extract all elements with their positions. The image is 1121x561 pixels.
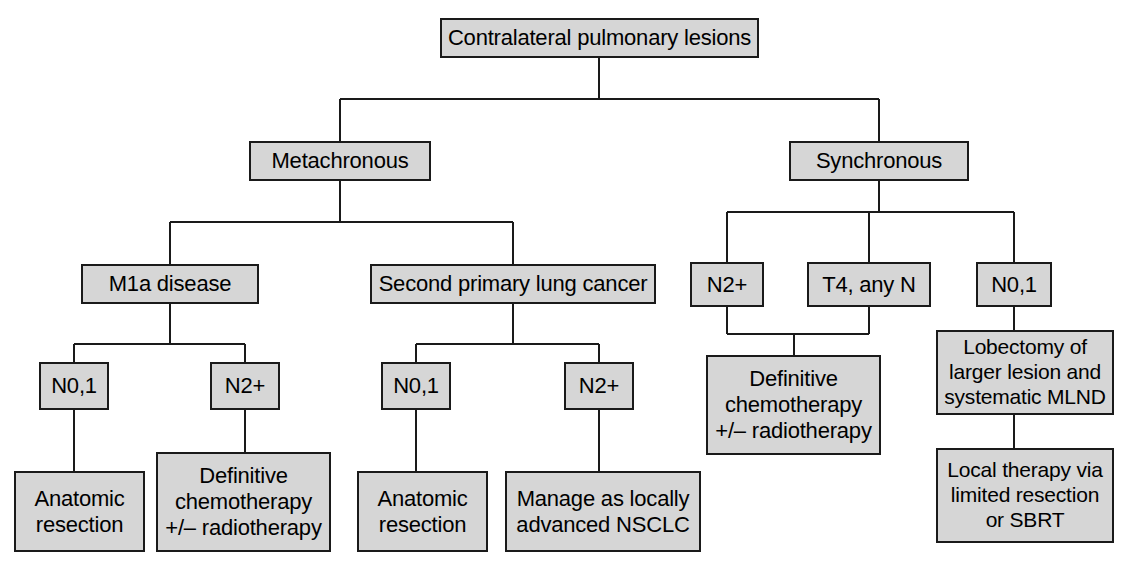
node-sync-t4-any-n[interactable]: T4, any N <box>807 262 931 307</box>
node-lobectomy-larger-lesion[interactable]: Lobectomy of larger lesion and systemati… <box>936 330 1114 415</box>
node-m1a-n01[interactable]: N0,1 <box>39 362 109 410</box>
node-anatomic-resection-splc[interactable]: Anatomic resection <box>357 471 488 552</box>
node-definitive-chemotherapy-sync[interactable]: Definitive chemotherapy +/– radiotherapy <box>706 355 881 455</box>
node-local-therapy[interactable]: Local therapy via limited resection or S… <box>936 448 1114 543</box>
node-m1a-disease[interactable]: M1a disease <box>81 264 259 304</box>
node-metachronous[interactable]: Metachronous <box>249 141 431 181</box>
node-manage-as-locally-advanced-nsclc[interactable]: Manage as locally advanced NSCLC <box>505 471 701 552</box>
flowchart-diagram: Contralateral pulmonary lesions Metachro… <box>0 0 1121 561</box>
node-sync-n2plus[interactable]: N2+ <box>690 262 764 307</box>
node-synchronous[interactable]: Synchronous <box>789 141 969 181</box>
node-sync-n01[interactable]: N0,1 <box>976 262 1052 307</box>
node-m1a-n2plus[interactable]: N2+ <box>210 362 280 410</box>
node-second-primary-lung-cancer[interactable]: Second primary lung cancer <box>370 264 656 304</box>
node-definitive-chemotherapy-m1a[interactable]: Definitive chemotherapy +/– radiotherapy <box>156 452 331 552</box>
node-root[interactable]: Contralateral pulmonary lesions <box>440 18 759 58</box>
node-splc-n2plus[interactable]: N2+ <box>564 362 634 410</box>
node-splc-n01[interactable]: N0,1 <box>381 362 451 410</box>
node-anatomic-resection-m1a[interactable]: Anatomic resection <box>14 471 145 552</box>
